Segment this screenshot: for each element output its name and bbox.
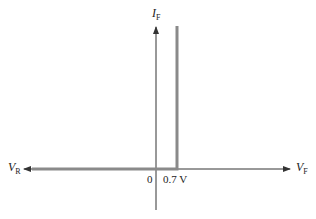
threshold-label: 0.7 V xyxy=(163,173,187,185)
if-axis-label: IF xyxy=(152,6,160,22)
origin-label: 0 xyxy=(147,173,153,185)
vr-axis-label: VR xyxy=(8,160,21,176)
vf-axis-label: VF xyxy=(296,160,308,176)
characteristic-curve xyxy=(32,26,177,169)
diode-characteristic-plot xyxy=(0,0,316,219)
